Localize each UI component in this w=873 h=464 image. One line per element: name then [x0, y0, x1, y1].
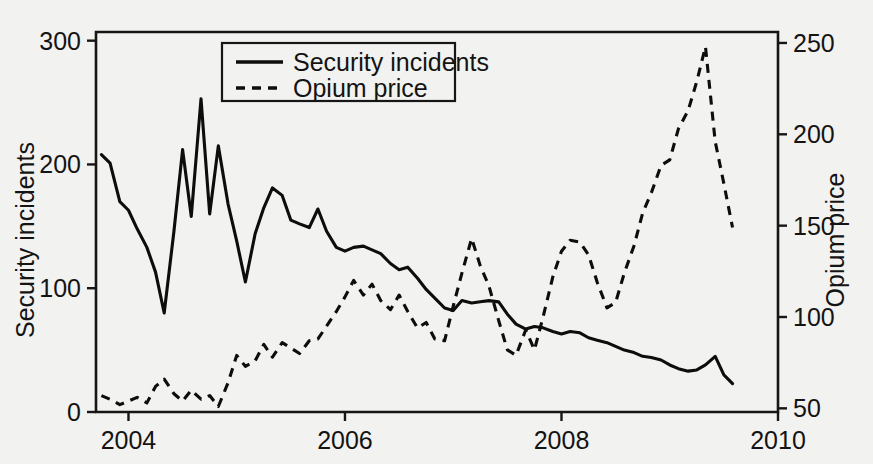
y-ticklabel-right: 250 [793, 29, 835, 57]
y-axis-right-title: Opium price [821, 173, 849, 308]
y-ticklabel-right: 200 [793, 120, 835, 148]
x-ticklabel: 2004 [101, 426, 157, 454]
x-ticklabel: 2010 [750, 426, 806, 454]
legend: Security incidents Opium price [222, 43, 489, 102]
x-ticklabel: 2006 [317, 426, 373, 454]
chart-figure: 0100200300 50100150200250 20042006200820… [0, 0, 873, 464]
y-ticklabel-left: 100 [39, 274, 81, 302]
chart-svg: 0100200300 50100150200250 20042006200820… [0, 0, 873, 464]
y-ticklabel-left: 200 [39, 150, 81, 178]
legend-label-opium-price: Opium price [293, 74, 428, 102]
y-ticklabel-right: 50 [793, 394, 821, 422]
y-ticklabel-left: 300 [39, 27, 81, 55]
x-ticklabel: 2008 [534, 426, 590, 454]
legend-label-security-incidents: Security incidents [293, 48, 489, 76]
y-axis-left-title: Security incidents [11, 142, 39, 338]
y-ticklabel-left: 0 [67, 398, 81, 426]
